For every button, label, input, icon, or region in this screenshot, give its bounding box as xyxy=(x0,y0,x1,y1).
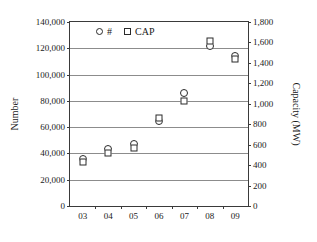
x-axis-tick-label: 03 xyxy=(78,212,87,221)
gridline xyxy=(70,153,248,154)
y-axis-left-tick-label: 100,000 xyxy=(36,70,65,79)
legend-label: # xyxy=(107,26,112,37)
y-axis-right-tick xyxy=(248,22,251,23)
data-point-CAP-09 xyxy=(232,55,239,62)
y-axis-right-tick-label: 0 xyxy=(253,202,258,211)
y-axis-left-tick xyxy=(67,101,70,102)
y-axis-right-tick-label: 400 xyxy=(253,161,267,170)
y-axis-left-tick xyxy=(67,127,70,128)
y-axis-right-tick-label: 600 xyxy=(253,140,267,149)
y-axis-right-tick-label: 1,600 xyxy=(253,38,273,47)
y-axis-right-tick xyxy=(248,206,251,207)
y-axis-right-tick xyxy=(248,165,251,166)
data-point--07 xyxy=(180,89,188,97)
x-axis-tick xyxy=(172,206,173,209)
y-axis-left-tick-label: 120,000 xyxy=(36,44,65,53)
y-axis-right-tick xyxy=(248,42,251,43)
y-axis-left-tick-label: 0 xyxy=(61,202,66,211)
y-axis-left-tick xyxy=(67,153,70,154)
y-axis-right-tick xyxy=(248,83,251,84)
x-axis-tick-label: 04 xyxy=(104,212,113,221)
legend-entry: # xyxy=(96,26,112,37)
y-axis-left-tick xyxy=(67,22,70,23)
data-point-CAP-06 xyxy=(156,115,163,122)
y-axis-left-tick-label: 20,000 xyxy=(40,175,65,184)
y-axis-right-tick xyxy=(248,186,251,187)
x-axis-tick-label: 07 xyxy=(180,212,189,221)
y-axis-right-tick-label: 1,400 xyxy=(253,58,273,67)
y-axis-right-tick xyxy=(248,63,251,64)
x-axis-tick-label: 08 xyxy=(205,212,214,221)
plot-area: 020,00040,00060,00080,000100,000120,0001… xyxy=(69,21,249,207)
data-point-CAP-08 xyxy=(206,37,213,44)
x-axis-tick xyxy=(146,206,147,209)
y-axis-left-tick xyxy=(67,180,70,181)
x-axis-tick xyxy=(121,206,122,209)
chart-figure: Number Capacity (MW) 020,00040,00060,000… xyxy=(0,0,317,242)
legend-label: CAP xyxy=(135,26,154,37)
data-point-CAP-07 xyxy=(181,98,188,105)
y-axis-left-tick-label: 60,000 xyxy=(40,123,65,132)
y-axis-right-tick-label: 1,800 xyxy=(253,18,273,27)
y-axis-left-tick xyxy=(67,206,70,207)
gridline xyxy=(70,48,248,49)
y-axis-left-tick-label: 40,000 xyxy=(40,149,65,158)
y-axis-right-tick xyxy=(248,145,251,146)
chart-legend: #CAP xyxy=(96,26,154,37)
y-axis-left-tick xyxy=(67,75,70,76)
x-axis-tick-label: 05 xyxy=(129,212,138,221)
gridline xyxy=(70,127,248,128)
y-axis-right-title: Capacity (MW) xyxy=(291,82,302,145)
legend-circle-icon xyxy=(96,28,103,35)
y-axis-left-tick-label: 140,000 xyxy=(36,18,65,27)
x-axis-tick-label: 09 xyxy=(231,212,240,221)
x-axis-tick xyxy=(197,206,198,209)
y-axis-right-tick-label: 200 xyxy=(253,181,267,190)
data-point-CAP-05 xyxy=(130,145,137,152)
legend-square-icon xyxy=(124,28,131,35)
y-axis-left-tick-label: 80,000 xyxy=(40,96,65,105)
x-axis-tick xyxy=(223,206,224,209)
gridline xyxy=(70,75,248,76)
y-axis-right-tick-label: 1,000 xyxy=(253,99,273,108)
y-axis-right-tick xyxy=(248,124,251,125)
y-axis-left-title: Number xyxy=(9,98,20,131)
legend-entry: CAP xyxy=(124,26,154,37)
data-point-CAP-03 xyxy=(79,158,86,165)
y-axis-right-tick-label: 800 xyxy=(253,120,267,129)
gridline xyxy=(70,180,248,181)
y-axis-right-tick-label: 1,200 xyxy=(253,79,273,88)
y-axis-right-tick xyxy=(248,104,251,105)
x-axis-tick-label: 06 xyxy=(155,212,164,221)
x-axis-tick xyxy=(95,206,96,209)
data-point-CAP-04 xyxy=(105,150,112,157)
gridline xyxy=(70,101,248,102)
y-axis-left-tick xyxy=(67,48,70,49)
